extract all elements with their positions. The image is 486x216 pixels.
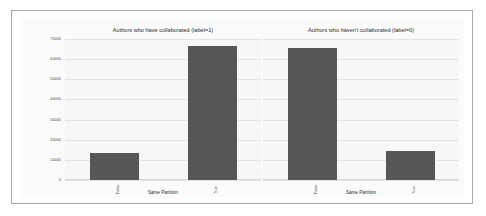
- x-axis-title: Same Partition: [263, 190, 459, 195]
- y-tick-label: 10000: [50, 158, 61, 162]
- plot-area: [65, 39, 261, 180]
- x-axis-title: Same Partition: [65, 190, 261, 195]
- bar-false: [90, 153, 139, 180]
- bar-false: [288, 48, 337, 180]
- panel-title: Authors who haven't collaborated (label=…: [263, 27, 459, 33]
- y-tick-label: 40000: [50, 97, 61, 101]
- bar-true: [386, 151, 435, 180]
- chart-panel-not-collaborated: Authors who haven't collaborated (label=…: [263, 18, 459, 197]
- panel-title: Authors who have collaborated (label=1): [65, 27, 261, 33]
- x-tick-label: False: [116, 185, 120, 194]
- gridline: [263, 180, 459, 181]
- x-tick-label: True: [214, 186, 218, 194]
- gridline: [65, 39, 261, 40]
- gridline: [263, 39, 459, 40]
- bar-true: [188, 46, 237, 180]
- y-tick-label: 60000: [50, 57, 61, 61]
- y-tick-label: 0: [59, 178, 61, 182]
- x-tick-label: False: [314, 185, 318, 194]
- y-tick-label: 30000: [50, 118, 61, 122]
- gridline: [65, 180, 261, 181]
- chart-panel-collaborated: Authors who have collaborated (label=1) …: [65, 18, 261, 197]
- x-tick-label: True: [412, 186, 416, 194]
- figure-canvas: 010000200003000040000500006000070000 Aut…: [21, 18, 465, 197]
- y-tick-label: 50000: [50, 77, 61, 81]
- y-tick-label: 20000: [50, 138, 61, 142]
- y-tick-label: 70000: [50, 37, 61, 41]
- figure-frame: 010000200003000040000500006000070000 Aut…: [11, 10, 473, 204]
- y-axis: 010000200003000040000500006000070000: [21, 18, 65, 197]
- plot-area: [263, 39, 459, 180]
